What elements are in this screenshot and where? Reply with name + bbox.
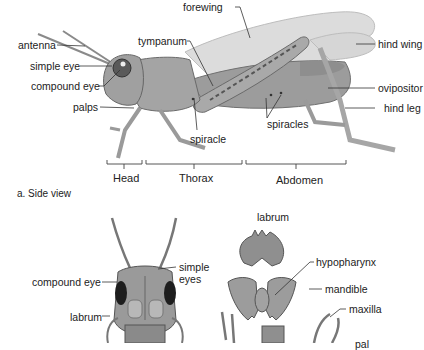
mouthparts-exploded-view [222,230,339,343]
label-mouthparts-labrum: labrum [257,211,289,223]
label-ovipositor: ovipositor [378,82,423,94]
label-simple-eyes-line1: simple [179,261,209,273]
label-spiracle: spiracle [190,133,226,145]
label-tympanum: tympanum [138,35,187,47]
label-mandible: mandible [325,283,368,295]
label-head-compound-eye: compound eye [32,276,101,288]
label-simple-eyes-line2: eyes [179,273,201,285]
label-hind-wing: hind wing [378,38,422,50]
segment-brackets [107,160,346,169]
label-hypopharynx: hypopharynx [316,256,376,268]
segment-label-abdomen: Abdomen [276,174,323,186]
label-forewing: forewing [183,1,223,13]
label-compound-eye: compound eye [31,80,100,92]
segment-label-thorax: Thorax [179,172,213,184]
label-palp-partial: pal [355,338,369,350]
caption-side-view: a. Side view [17,188,71,200]
label-simple-eye: simple eye [30,60,80,72]
label-palps: palps [73,101,98,113]
segment-label-head: Head [113,172,139,184]
label-hind-leg: hind leg [384,102,421,114]
label-antenna: antenna [18,39,56,51]
grasshopper-head-front-view [107,218,182,343]
label-spiracles: spiracles [267,118,308,130]
label-maxilla: maxilla [349,303,382,315]
label-head-labrum: labrum [70,311,102,323]
